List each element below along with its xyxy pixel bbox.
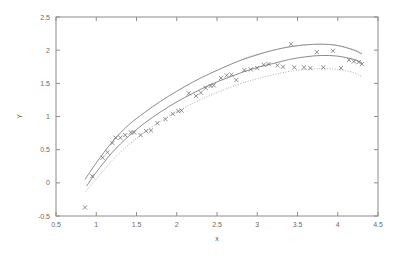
plot-frame [56,17,378,216]
data-point-marker [171,112,175,116]
y-tick-label: 0.5 [40,146,50,153]
data-point-marker [234,78,238,82]
x-tick-label: 2 [175,221,179,228]
data-point-marker [101,156,105,160]
y-tick-label: 2.5 [40,14,50,21]
data-point-marker [163,117,167,121]
data-point-marker [113,136,117,140]
x-tick-label: 3.5 [293,221,303,228]
y-axis-title: Y [16,114,23,119]
data-point-marker [199,91,203,95]
data-point-marker [212,83,216,87]
data-point-marker [275,63,279,67]
y-tick-label: 1 [46,113,50,120]
data-point-marker [149,128,153,132]
data-point-marker [225,73,229,77]
x-tick-label: 1.5 [132,221,142,228]
y-tick-label: -0.5 [38,213,50,220]
x-tick-label: 1 [94,221,98,228]
x-tick-label: 3 [255,221,259,228]
x-tick-label: 0.5 [51,221,61,228]
data-point-marker [179,108,183,112]
scatter-plot-chart: 0.511.522.533.544.5-0.500.511.522.5 x Y [0,0,405,260]
data-point-marker [339,66,343,70]
data-point-marker [155,121,159,125]
x-axis-title: x [215,235,219,242]
data-point-marker [249,67,253,71]
data-point-marker [219,76,223,80]
data-point-marker [105,150,109,154]
x-tick-label: 4 [336,221,340,228]
lower-confidence-curve [85,69,362,192]
data-point-marker [281,65,285,69]
fitted-regression-curve [87,55,362,186]
data-point-marker [302,65,306,69]
figure-canvas: 0.511.522.533.544.5-0.500.511.522.5 x Y [0,0,405,260]
curves-group [85,44,362,192]
data-point-marker [262,63,266,67]
x-tick-label: 4.5 [373,221,383,228]
data-point-marker [123,133,127,137]
axes-group [56,17,378,216]
upper-confidence-curve [85,44,362,179]
data-point-marker [292,65,296,69]
data-point-marker [289,42,293,46]
data-point-marker [138,133,142,137]
data-point-marker [187,91,191,95]
tick-labels-group: 0.511.522.533.544.5-0.500.511.522.5 [38,14,383,229]
y-tick-label: 1.5 [40,80,50,87]
data-point-marker [321,65,325,69]
data-point-marker [315,50,319,54]
data-point-marker [347,58,351,62]
data-point-marker [194,94,198,98]
data-point-marker [144,129,148,133]
data-point-marker [118,136,122,140]
data-point-marker [308,66,312,70]
x-tick-label: 2.5 [212,221,222,228]
data-point-marker [352,59,356,63]
y-tick-label: 2 [46,47,50,54]
data-point-marker [331,49,335,53]
data-point-marker [83,205,87,209]
y-tick-label: 0 [46,179,50,186]
